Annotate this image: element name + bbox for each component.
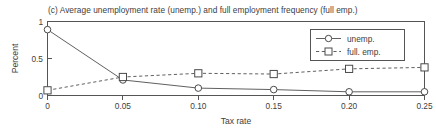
data-point-square: [421, 64, 428, 71]
x-tick-label-0.05: 0.05: [115, 101, 132, 111]
x-axis-tick-labels: 0 0.05 0.10 0.15 0.20 0.25: [45, 101, 433, 111]
x-tick-label-0: 0: [45, 101, 50, 111]
legend-entry-full-emp: full. emp.: [316, 47, 381, 57]
y-tick-label-0: 0: [38, 91, 43, 101]
data-point-square: [195, 70, 202, 77]
x-tick-label-0.25: 0.25: [416, 101, 433, 111]
legend-marker-circle-icon: [325, 35, 331, 41]
legend-label-full-emp: full. emp.: [347, 47, 381, 57]
data-point-square: [270, 70, 277, 77]
data-point-circle: [44, 26, 51, 33]
x-tick-label-0.10: 0.10: [190, 101, 207, 111]
legend-marker-square-icon: [325, 48, 332, 55]
data-point-circle: [270, 86, 277, 93]
data-point-square: [346, 65, 353, 72]
y-axis-tick-labels: 1 0.5 0: [31, 17, 43, 101]
chart-figure: (c) Average unemployment rate (unemp.) a…: [0, 0, 436, 132]
x-tick-label-0.20: 0.20: [341, 101, 358, 111]
chart-plot-area: 1 0.5 0 Percent 0 0.05 0.10 0.15 0.20 0.…: [0, 0, 436, 132]
y-tick-label-0.5: 0.5: [31, 54, 43, 64]
chart-legend: unemp. full. emp.: [311, 30, 405, 61]
data-point-circle: [195, 85, 202, 92]
series-full-emp: [44, 64, 428, 94]
x-axis-label: Tax rate: [221, 116, 252, 126]
legend-label-unemp: unemp.: [347, 34, 375, 44]
y-tick-label-1: 1: [38, 17, 43, 27]
x-axis-ticks: [48, 96, 425, 100]
x-tick-label-0.15: 0.15: [266, 101, 283, 111]
data-point-circle: [346, 89, 353, 96]
data-point-circle: [421, 89, 428, 96]
data-point-square: [119, 73, 126, 80]
data-point-square: [44, 87, 51, 94]
series-line: [48, 67, 425, 90]
y-axis-label: Percent: [10, 43, 20, 73]
